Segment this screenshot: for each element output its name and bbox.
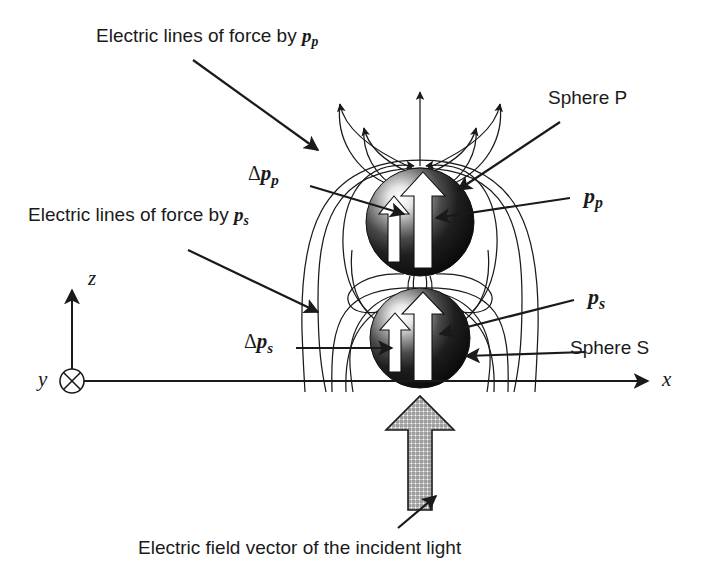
label-ps-symbol: p: [588, 284, 599, 309]
leader-lines-by-pp: [193, 60, 318, 150]
leader-lines-by-ps: [188, 250, 318, 312]
physics-diagram-svg: [0, 0, 714, 573]
label-delta-pp: Δpp: [248, 162, 279, 188]
field-line-p-upper-left-1: [340, 104, 412, 168]
label-sphere-s: Sphere S: [570, 338, 649, 357]
label-lines-of-force-by-ps-subscript: s: [243, 213, 248, 228]
label-incident-light: Electric field vector of the incident li…: [138, 538, 461, 557]
label-sphere-p: Sphere P: [548, 88, 627, 107]
incident-field-arrow: [386, 396, 454, 510]
label-lines-of-force-by-ps-symbol: p: [234, 204, 244, 225]
label-pp-symbol: p: [584, 183, 595, 208]
label-delta-ps-delta: Δ: [244, 330, 257, 352]
axis-label-y: y: [38, 369, 47, 390]
label-delta-pp-subscript: p: [271, 172, 279, 188]
axis-label-x: x: [662, 369, 671, 390]
label-ps: ps: [588, 286, 605, 312]
label-pp-subscript: p: [595, 194, 603, 211]
leader-sphere-p: [458, 122, 560, 190]
label-delta-pp-symbol: p: [261, 161, 272, 185]
label-delta-ps-symbol: p: [257, 329, 268, 353]
label-lines-of-force-by-pp-symbol: p: [302, 25, 312, 46]
label-lines-of-force-by-ps: Electric lines of force by ps: [28, 205, 249, 228]
field-line-p-upper-right-1b: [448, 104, 501, 186]
leader-sphere-s: [466, 352, 585, 356]
label-delta-ps-subscript: s: [267, 340, 273, 356]
label-lines-of-force-by-pp-subscript: p: [311, 34, 318, 49]
label-ps-subscript: s: [599, 295, 605, 312]
field-line-p-upper-left-1b: [339, 104, 392, 186]
label-lines-of-force-by-pp-prefix: Electric lines of force by: [96, 25, 302, 46]
leader-lines-group: [188, 60, 585, 528]
y-axis-into-page-marker: [60, 369, 84, 393]
field-line-p-upper-right-1: [428, 104, 500, 168]
sphere-s: [370, 288, 470, 388]
sphere-p: [366, 168, 474, 276]
figure-canvas: Electric lines of force by pp Electric l…: [0, 0, 714, 573]
axis-label-z: z: [88, 268, 96, 289]
label-delta-pp-delta: Δ: [248, 162, 261, 184]
label-delta-ps: Δps: [244, 330, 273, 356]
coordinate-axes: [60, 290, 648, 393]
label-pp: pp: [584, 185, 603, 211]
label-lines-of-force-by-ps-prefix: Electric lines of force by: [28, 204, 234, 225]
label-lines-of-force-by-pp: Electric lines of force by pp: [96, 26, 318, 49]
